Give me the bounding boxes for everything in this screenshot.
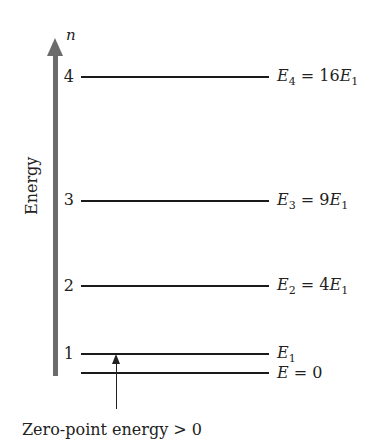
energy-rhs-subscript: 1 — [341, 199, 348, 212]
energy-equals: = 16 — [296, 66, 340, 85]
energy-rhs-symbol: E — [329, 275, 341, 294]
energy-symbol: E — [277, 343, 289, 362]
quantum-number-label: n — [66, 26, 76, 44]
energy-symbol: E — [277, 190, 289, 209]
energy-subscript: 2 — [289, 284, 296, 297]
energy-equals: = 0 — [289, 363, 323, 382]
energy-axis — [53, 52, 58, 376]
zero-energy-label: E = 0 — [277, 363, 322, 382]
energy-symbol: E — [277, 66, 289, 85]
level-number-1: 1 — [60, 344, 74, 363]
energy-rhs-subscript: 1 — [351, 75, 358, 88]
energy-rhs-subscript: 1 — [341, 284, 348, 297]
energy-axis-label: Energy — [22, 157, 41, 215]
level-line-4 — [81, 76, 269, 78]
energy-equals: = 4 — [296, 275, 330, 294]
zero-point-annotation: Zero-point energy > 0 — [22, 420, 202, 439]
level-number-2: 2 — [60, 276, 74, 295]
level-label-2: E2 = 4E1 — [277, 275, 348, 297]
energy-equals: = 9 — [296, 190, 330, 209]
level-number-3: 3 — [60, 190, 74, 209]
level-label-1: E1 — [277, 343, 296, 365]
energy-symbol: E — [277, 363, 289, 382]
zero-point-arrow — [116, 362, 117, 409]
energy-subscript: 4 — [289, 75, 296, 88]
energy-subscript: 3 — [289, 199, 296, 212]
energy-symbol: E — [277, 275, 289, 294]
energy-rhs-symbol: E — [329, 190, 341, 209]
level-label-3: E3 = 9E1 — [277, 190, 348, 212]
level-line-1 — [81, 353, 269, 355]
energy-rhs-symbol: E — [340, 66, 352, 85]
level-label-4: E4 = 16E1 — [277, 66, 358, 88]
level-number-4: 4 — [60, 67, 74, 86]
level-line-2 — [81, 285, 269, 287]
zero-energy-line — [81, 372, 269, 374]
level-line-3 — [81, 200, 269, 202]
